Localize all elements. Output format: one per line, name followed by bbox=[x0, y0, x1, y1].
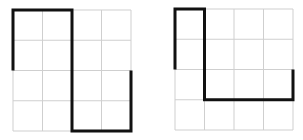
diagram-canvas bbox=[0, 0, 303, 140]
right-grid bbox=[175, 9, 293, 130]
left-grid bbox=[13, 10, 131, 131]
